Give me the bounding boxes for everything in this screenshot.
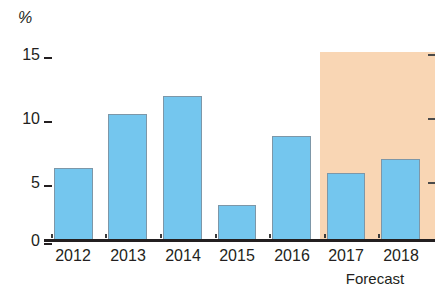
x-label-2017: 2017 — [318, 248, 374, 264]
bar-2016 — [272, 136, 311, 240]
bar-2018 — [381, 159, 420, 240]
forecast-caption: Forecast — [315, 271, 435, 286]
x-tick-2 — [160, 234, 162, 238]
x-label-2015: 2015 — [209, 248, 265, 264]
x-label-2012: 2012 — [45, 248, 101, 264]
y-tick-15: 15 — [8, 45, 52, 65]
y-tick-10-dash — [44, 121, 52, 123]
bar-2017 — [327, 173, 365, 240]
x-label-2016: 2016 — [264, 248, 320, 264]
right-tick-15 — [428, 54, 435, 56]
y-tick-15-label: 15 — [22, 47, 40, 63]
y-axis-unit-label: % — [18, 10, 32, 26]
bar-2013 — [108, 114, 147, 240]
right-tick-10 — [428, 118, 435, 120]
x-tick-0 — [51, 234, 53, 238]
y-tick-5-label: 5 — [31, 175, 40, 191]
y-tick-0-label: 0 — [31, 233, 40, 249]
y-tick-10: 10 — [8, 109, 52, 129]
bar-2015 — [218, 205, 256, 240]
right-tick-5 — [428, 182, 435, 184]
x-tick-6 — [378, 234, 380, 238]
x-tick-1 — [105, 234, 107, 238]
bar-chart: % 15 10 5 0 — [0, 0, 435, 293]
x-label-2018: 2018 — [373, 248, 429, 264]
x-tick-4 — [269, 234, 271, 238]
bar-2014 — [163, 96, 202, 240]
x-label-2014: 2014 — [155, 248, 211, 264]
x-tick-3 — [215, 234, 217, 238]
y-tick-5: 5 — [8, 173, 52, 193]
x-label-2013: 2013 — [100, 248, 156, 264]
y-tick-15-dash — [44, 57, 52, 59]
y-tick-0-dash — [44, 243, 52, 245]
y-tick-10-label: 10 — [22, 111, 40, 127]
y-tick-5-dash — [44, 185, 52, 187]
bar-2012 — [54, 168, 93, 240]
plot-area: % 15 10 5 0 — [0, 0, 435, 293]
x-tick-5 — [324, 234, 326, 238]
x-axis-baseline — [44, 239, 435, 242]
